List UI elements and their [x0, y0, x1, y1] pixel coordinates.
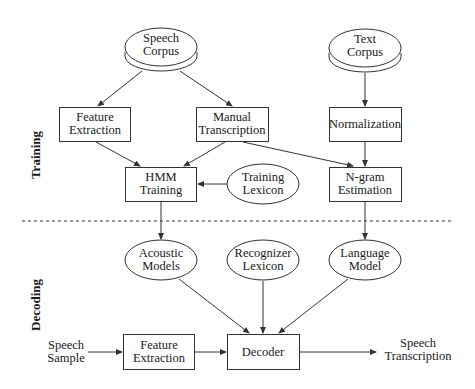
speech-sample-node: Speech Sample — [47, 339, 85, 365]
training-lexicon-node: Training Lexicon — [242, 171, 285, 197]
decoding-section-label: Decoding — [28, 279, 44, 331]
feature-extraction-decode-node: Feature Extraction — [133, 339, 185, 365]
speech-transcription-node: Speech Transcription — [385, 337, 452, 363]
label-line: Models — [139, 260, 183, 273]
label-line: Sample — [47, 352, 85, 365]
ngram-estimation-node: N-gram Estimation — [338, 171, 392, 197]
acoustic-models-node: Acoustic Models — [139, 247, 183, 273]
speech-corpus-node: Speech Corpus — [143, 32, 179, 58]
decoder-node: Decoder — [242, 346, 284, 359]
feature-extraction-train-node: Feature Extraction — [69, 111, 121, 137]
label-line: Transcription — [385, 350, 452, 363]
label-line: Model — [340, 260, 389, 273]
label-line: Extraction — [69, 124, 121, 137]
manual-transcription-node: Manual Transcription — [199, 111, 266, 137]
label-line: Estimation — [338, 184, 392, 197]
label-line: Lexicon — [235, 260, 292, 273]
label-line: Corpus — [143, 45, 179, 58]
label-line: Extraction — [133, 352, 185, 365]
diagram-canvas — [0, 0, 475, 389]
label-line: Normalization — [329, 118, 401, 131]
training-section-label: Training — [28, 131, 44, 179]
label-line: Corpus — [347, 46, 383, 59]
label-line: Lexicon — [242, 184, 285, 197]
recognizer-lexicon-node: Recognizer Lexicon — [235, 247, 292, 273]
language-model-node: Language Model — [340, 247, 389, 273]
label-line: Transcription — [199, 124, 266, 137]
label-line: Training — [140, 184, 183, 197]
text-corpus-node: Text Corpus — [347, 33, 383, 59]
hmm-training-node: HMM Training — [140, 171, 183, 197]
normalization-node: Normalization — [329, 118, 401, 131]
label-line: Decoder — [242, 346, 284, 359]
